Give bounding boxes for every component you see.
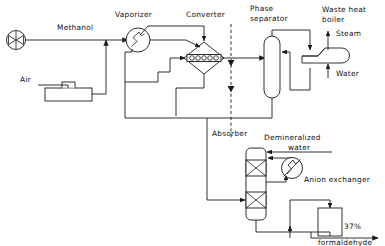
label-methanol: Methanol [57,23,93,32]
label-demineralized-line1: Demineralized [264,133,321,142]
vaporizer-heat-inlet-line [141,26,204,34]
vaporizer-bottom-line [125,49,132,116]
label-anion-exchanger: Anion exchanger [304,175,371,184]
label-product-percent: 37% [344,222,361,231]
label-steam: Steam [336,29,361,38]
process-flow-diagram: Methanol Air Vaporizer Converter Phase s… [0,0,385,246]
converter-bottom-line [176,74,204,116]
label-absorber: Absorber [212,129,248,138]
label-demineralized-line2: water [288,143,311,152]
label-converter: Converter [186,10,226,19]
label-phase-separator-line2: separator [250,14,289,23]
flow-diagram-canvas: Methanol Air Vaporizer Converter Phase s… [0,0,385,246]
phase-separator [264,30,280,118]
label-water: Water [336,69,360,78]
label-waste-heat-boiler-line2: boiler [322,15,345,24]
label-phase-separator-line1: Phase [250,4,274,13]
label-waste-heat-boiler-line1: Waste heat [322,5,366,14]
separator-bottom-line [125,116,272,118]
converter-feed-line [125,58,185,82]
absorber [246,148,266,220]
label-air: Air [20,75,32,84]
converter [184,42,224,74]
air-discharge-line [92,40,106,94]
vaporizer [126,28,150,52]
converter-bypass-dashed-line [228,24,235,138]
label-vaporizer: Vaporizer [115,10,153,19]
product-cooler [282,158,303,179]
label-product-name: formaldehyde [318,238,373,246]
waste-heat-boiler [302,48,350,63]
methanol-pump [7,31,26,50]
